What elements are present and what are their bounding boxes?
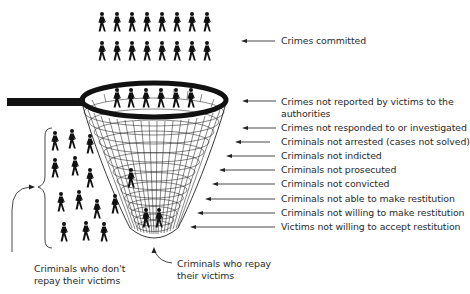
net-rim (82, 83, 226, 117)
label-not-reported-line2: authorities (281, 108, 330, 120)
label-not-willing: Criminals not willing to make restitutio… (281, 207, 464, 219)
label-arrows (190, 39, 276, 229)
label-not-convicted: Criminals not convicted (281, 178, 389, 190)
label-dont-repay-line1: Criminals who don't (34, 263, 125, 275)
label-repay-line1: Criminals who repay (177, 258, 271, 270)
label-not-responded: Crimes not responded to or investigated (281, 122, 467, 134)
label-not-arrested: Criminals not arrested (cases not solved… (281, 136, 470, 148)
left-brace (38, 128, 52, 248)
label-victims-not-willing: Victims not willing to accept restitutio… (281, 221, 460, 233)
figures-not-repaying (51, 129, 118, 242)
label-repay-line2: their victims (177, 270, 234, 282)
label-not-able: Criminals not able to make restitution (281, 193, 455, 205)
figure-mid-net (127, 168, 134, 188)
crimes-committed-crowd (98, 12, 210, 61)
label-crimes-committed: Crimes committed (281, 35, 366, 47)
label-not-indicted: Criminals not indicted (281, 150, 382, 162)
dont-repay-pointer (12, 187, 30, 252)
net-handle (7, 98, 85, 106)
label-dont-repay-line2: repay their victims (34, 275, 120, 287)
label-not-prosecuted: Criminals not prosecuted (281, 164, 396, 176)
label-not-reported-line1: Crimes not reported by victims to the (281, 96, 454, 108)
repay-pointer (155, 252, 172, 263)
